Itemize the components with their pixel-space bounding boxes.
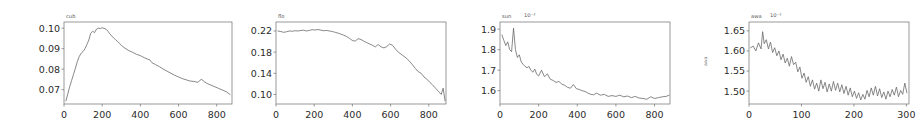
y-tick-label: 1.6 <box>481 85 496 96</box>
y-tick-label: 0.07 <box>39 84 60 95</box>
x-tick-label: 600 <box>607 109 625 120</box>
x-tick-label: 0 <box>497 109 503 120</box>
x-axis-ticks-flo: 0200400600800 <box>273 104 438 120</box>
data-curve-awa <box>751 32 907 100</box>
chart-svg-flo: 0.100.140.180.22 0200400600800 flo <box>240 0 470 135</box>
figure-panel-row: 0.070.080.090.10 0200400600800 cub 0.100… <box>0 0 923 135</box>
chart-panel-cub: 0.070.080.090.10 0200400600800 cub <box>0 0 240 135</box>
y-axis-ticks-flo: 0.100.140.180.22 <box>251 25 276 99</box>
chart-title-awa: awa <box>751 13 762 19</box>
x-tick-label: 600 <box>169 109 187 120</box>
data-curve-sun <box>502 28 669 99</box>
x-tick-label: 600 <box>382 109 400 120</box>
x-tick-label: 200 <box>845 109 863 120</box>
y-tick-label: 0.10 <box>39 23 60 34</box>
y-axis-ticks-awa: 1.501.551.601.65 <box>724 25 749 96</box>
y-tick-label: 1.55 <box>724 65 745 76</box>
data-curve-flo <box>278 30 445 101</box>
chart-svg-sun: 1.61.71.81.9 0200400600800 sun 10⁻³ <box>470 0 700 135</box>
x-tick-label: 0 <box>61 109 67 120</box>
curve-group-sun <box>502 28 669 99</box>
chart-svg-cub: 0.070.080.090.10 0200400600800 cub <box>0 0 240 135</box>
chart-panel-flo: 0.100.140.180.22 0200400600800 flo <box>240 0 470 135</box>
y-tick-label: 1.60 <box>724 45 745 56</box>
x-tick-label: 400 <box>131 109 149 120</box>
plot-frame-flo <box>276 22 446 104</box>
x-tick-label: 200 <box>530 109 548 120</box>
data-curve-cub <box>66 28 230 101</box>
x-tick-label: 200 <box>305 109 323 120</box>
chart-panel-awa: 1.501.551.601.65 0100200300 awa 10⁻³ awa <box>700 0 923 135</box>
x-axis-ticks-sun: 0200400600800 <box>497 104 664 120</box>
curve-group-flo <box>278 30 445 101</box>
y-tick-label: 1.65 <box>724 25 745 36</box>
y-axis-ticks-cub: 0.070.080.090.10 <box>39 23 64 96</box>
chart-svg-awa: 1.501.551.601.65 0100200300 awa 10⁻³ awa <box>700 0 923 135</box>
curve-group-cub <box>66 28 230 101</box>
y-tick-label: 0.10 <box>251 89 272 100</box>
y-tick-label: 0.08 <box>39 64 60 75</box>
curve-group-awa <box>751 32 907 100</box>
y-tick-label: 0.22 <box>251 25 272 36</box>
plot-frame-awa <box>749 22 909 104</box>
chart-exponent-awa: 10⁻³ <box>770 12 781 18</box>
y-tick-label: 1.7 <box>481 65 496 76</box>
x-tick-label: 800 <box>645 109 663 120</box>
x-tick-label: 300 <box>897 109 915 120</box>
x-tick-label: 800 <box>420 109 438 120</box>
y-tick-label: 1.50 <box>724 86 745 97</box>
chart-exponent-sun: 10⁻³ <box>524 12 535 18</box>
x-tick-label: 400 <box>568 109 586 120</box>
x-axis-ticks-cub: 0200400600800 <box>61 104 226 120</box>
y-tick-label: 0.18 <box>251 47 272 58</box>
x-axis-ticks-awa: 0100200300 <box>746 104 915 120</box>
chart-title-flo: flo <box>278 13 284 19</box>
x-tick-label: 400 <box>343 109 361 120</box>
x-tick-label: 200 <box>93 109 111 120</box>
x-tick-label: 0 <box>746 109 752 120</box>
x-tick-label: 800 <box>208 109 226 120</box>
y-axis-ticks-sun: 1.61.71.81.9 <box>481 24 500 97</box>
y-tick-label: 0.14 <box>251 68 272 79</box>
x-tick-label: 0 <box>273 109 279 120</box>
y-axis-label-awa: awa <box>703 56 708 66</box>
y-tick-label: 1.8 <box>481 44 496 55</box>
plot-frame-cub <box>64 22 232 104</box>
y-tick-label: 1.9 <box>481 24 496 35</box>
chart-panel-sun: 1.61.71.81.9 0200400600800 sun 10⁻³ <box>470 0 700 135</box>
chart-title-cub: cub <box>66 13 76 19</box>
x-tick-label: 100 <box>792 109 810 120</box>
y-tick-label: 0.09 <box>39 43 60 54</box>
chart-title-sun: sun <box>502 13 511 19</box>
